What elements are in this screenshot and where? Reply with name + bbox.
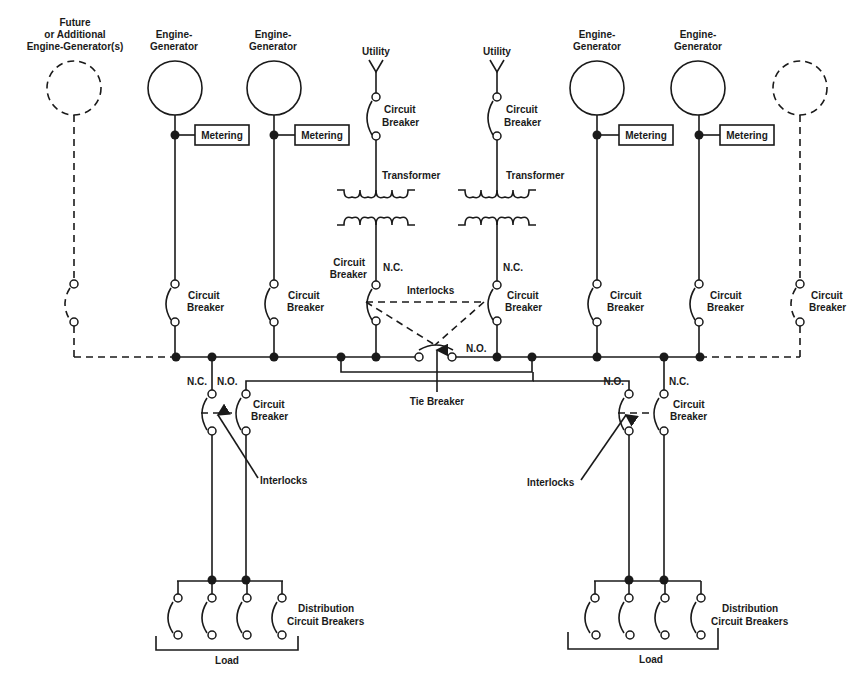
interlocks-label: Interlocks [527,477,575,488]
cb-label: Circuit [188,290,220,301]
distribution-label: Circuit Breakers [287,616,365,627]
right-load: Distribution Circuit Breakers Load [568,576,789,666]
cb-label: Circuit [253,399,285,410]
cb-label: Circuit [710,290,742,301]
gen-label: Generator [573,41,621,52]
nc-label: N.C. [383,262,403,273]
transformer-primary-icon [458,190,536,198]
cb-label: Circuit [333,257,365,268]
one-line-diagram: Future or Additional Engine-Generator(s)… [0,0,865,678]
cb-label: Breaker [382,117,419,128]
cb-label: Circuit [288,290,320,301]
cb-label: Circuit [610,290,642,301]
metering-label: Metering [301,130,343,141]
cb-label: Breaker [809,302,846,313]
tie-breaker-contact [419,345,453,350]
left-load: Distribution Circuit Breakers Load [156,576,365,667]
distribution-label: Circuit Breakers [711,616,789,627]
transformer-label: Transformer [506,170,564,181]
nc-label: N.C. [669,376,689,387]
cb-label: Circuit [507,290,539,301]
generator-icon [247,61,301,115]
cb-label: Circuit [384,104,416,115]
cb-label: Breaker [505,302,542,313]
gen-label: Engine- [680,29,717,40]
transformer-label: Transformer [382,170,440,181]
load-label: Load [639,654,663,665]
engine-generator-3: Engine- Generator Metering Circuit Break… [570,29,673,357]
gen-label: Engine- [156,29,193,40]
nc-label: N.C. [503,262,523,273]
cb-label: Breaker [330,269,367,280]
distribution-label: Distribution [722,603,778,614]
tie-breaker-label: Tie Breaker [410,396,464,407]
generator-icon [671,61,725,115]
gen-label: Generator [249,41,297,52]
no-label: N.O. [603,376,624,387]
cb-label: Breaker [707,302,744,313]
future-gen-label-1: Future [59,17,91,28]
load-label: Load [215,655,239,666]
engine-generator-4: Engine- Generator Metering Circuit Break… [671,29,774,357]
metering-label: Metering [625,130,667,141]
generator-icon [148,61,202,115]
no-label: N.O. [466,343,487,354]
cross-feed-left [246,372,533,391]
cb-label: Breaker [504,117,541,128]
interlocks-label: Interlocks [407,285,455,296]
utility-interlocks: Interlocks [366,285,484,345]
interlocks-pointer [581,415,626,480]
engine-generator-1: Engine- Generator Metering Circuit Break… [148,29,249,357]
main-bus: N.O. Tie Breaker [172,343,705,407]
utility-feed-1: Utility Circuit Breaker Transformer Circ… [330,46,441,357]
utility-antenna-icon [369,60,383,72]
cb-label: Circuit [811,290,843,301]
future-generator-left: Future or Additional Engine-Generator(s) [27,17,176,357]
utility-label: Utility [483,46,511,57]
utility-label: Utility [362,46,390,57]
cb-label: Circuit [506,104,538,115]
future-gen-label-2: or Additional [44,29,106,40]
distribution-breakers [585,581,705,639]
metering-label: Metering [201,130,243,141]
gen-label: Generator [150,41,198,52]
cb-label: Circuit [673,399,705,410]
engine-generator-2: Engine- Generator Metering Circuit Break… [247,29,349,357]
gen-label: Engine- [255,29,292,40]
interlocks-label: Interlocks [260,475,308,486]
generator-icon [47,61,101,115]
cb-label: Breaker [670,411,707,422]
distribution-label: Distribution [298,603,354,614]
distribution-breakers [168,581,286,639]
utility-antenna-icon [490,60,504,72]
left-load-feed: N.C. N.O. Circuit Breaker Interlocks [187,357,308,579]
no-label: N.O. [217,376,238,387]
generator-icon [773,61,827,115]
cb-label: Breaker [287,302,324,313]
cb-label: Breaker [187,302,224,313]
gen-label: Engine- [579,29,616,40]
right-load-feed: N.O. N.C. Circuit Breaker Interlocks [527,357,707,579]
cb-label: Breaker [251,411,288,422]
generator-icon [570,61,624,115]
metering-label: Metering [726,130,768,141]
nc-label: N.C. [187,376,207,387]
cb-label: Breaker [607,302,644,313]
gen-label: Generator [674,41,722,52]
transformer-primary-icon [337,190,415,198]
future-gen-label-3: Engine-Generator(s) [27,41,124,52]
